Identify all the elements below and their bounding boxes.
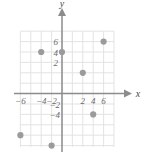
data-point [38, 49, 44, 55]
x-axis-tick-labels: −6 −4 −2 2 4 6 [15, 96, 106, 106]
coordinate-plane-figure: −6 −4 −2 2 4 6 6 4 2 −2 −4 x y [0, 0, 151, 159]
y-axis-label: y [59, 0, 65, 9]
x-axis-label: x [135, 88, 141, 99]
svg-text:−2: −2 [49, 100, 60, 110]
svg-text:4: 4 [91, 96, 96, 106]
svg-text:−4: −4 [49, 110, 60, 120]
data-point [80, 70, 86, 76]
data-point [49, 143, 55, 149]
data-point [59, 49, 65, 55]
y-axis [58, 8, 66, 152]
svg-text:−6: −6 [15, 96, 26, 106]
scatter-plot-svg: −6 −4 −2 2 4 6 6 4 2 −2 −4 x y [0, 0, 151, 159]
data-point [101, 39, 107, 45]
grid-vertical-lines [20, 31, 114, 147]
svg-text:6: 6 [101, 96, 106, 106]
grid-horizontal-lines [20, 31, 114, 145]
svg-text:2: 2 [54, 58, 59, 68]
svg-text:6: 6 [54, 37, 59, 47]
data-point [17, 132, 23, 138]
y-axis-tick-labels: 6 4 2 −2 −4 [49, 37, 60, 120]
data-point [90, 111, 96, 117]
svg-text:2: 2 [81, 96, 86, 106]
svg-text:4: 4 [54, 48, 59, 58]
